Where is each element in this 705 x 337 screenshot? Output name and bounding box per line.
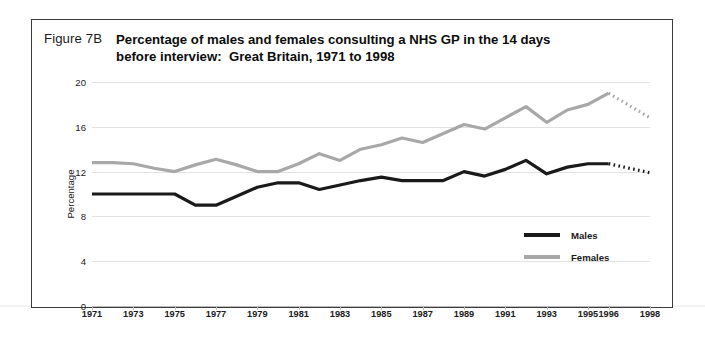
- x-tick-mark-1987: [423, 306, 424, 310]
- series-line-females: [92, 93, 609, 171]
- x-tick-label-1991: 1991: [495, 309, 515, 319]
- x-tick-label-1993: 1993: [536, 309, 556, 319]
- x-tick-mark-1996: [609, 306, 610, 310]
- x-tick-label-1985: 1985: [371, 309, 391, 319]
- legend-item-females: Females: [524, 246, 609, 268]
- plot-area: Percentage 048121620 1971197319751977197…: [92, 82, 650, 306]
- figure-container: Figure 7B Percentage of males and female…: [0, 0, 705, 337]
- legend-label-males: Males: [571, 230, 598, 241]
- title-row: Figure 7B Percentage of males and female…: [44, 31, 662, 65]
- x-tick-label-1995: 1995: [578, 309, 598, 319]
- page-title: Percentage of males and females consulti…: [116, 31, 550, 65]
- x-tick-mark-1989: [464, 306, 465, 310]
- x-tick-mark-1981: [299, 306, 300, 310]
- x-tick-label-1996: 1996: [598, 309, 618, 319]
- x-tick-mark-1995: [588, 306, 589, 310]
- x-tick-mark-1998: [650, 306, 651, 310]
- series-layer: [92, 82, 650, 306]
- title-line-2: before interview: Great Britain, 1971 to…: [116, 48, 550, 65]
- legend-swatch-females: [524, 255, 560, 258]
- legend-item-males: Males: [524, 224, 609, 246]
- x-tick-label-1973: 1973: [123, 309, 143, 319]
- series-line-females-projected: [609, 93, 650, 118]
- y-tick-label-4: 4: [81, 256, 86, 267]
- x-tick-mark-1983: [340, 306, 341, 310]
- x-tick-label-1971: 1971: [82, 309, 102, 319]
- x-tick-mark-1993: [547, 306, 548, 310]
- series-line-males: [92, 160, 609, 205]
- x-tick-label-1998: 1998: [640, 309, 660, 319]
- x-tick-mark-1979: [257, 306, 258, 310]
- figure-number: Figure 7B: [44, 31, 102, 46]
- x-tick-mark-1977: [216, 306, 217, 310]
- x-tick-label-1987: 1987: [412, 309, 432, 319]
- x-tick-label-1977: 1977: [206, 309, 226, 319]
- x-tick-mark-1991: [505, 306, 506, 310]
- y-tick-label-12: 12: [75, 166, 86, 177]
- x-tick-label-1975: 1975: [164, 309, 184, 319]
- x-tick-mark-1985: [381, 306, 382, 310]
- series-line-males-projected: [609, 164, 650, 173]
- x-tick-mark-1975: [175, 306, 176, 310]
- y-tick-label-8: 8: [81, 211, 86, 222]
- y-tick-label-20: 20: [75, 77, 86, 88]
- x-tick-label-1983: 1983: [330, 309, 350, 319]
- legend-label-females: Females: [571, 252, 609, 263]
- title-line-1: Percentage of males and females consulti…: [116, 31, 550, 48]
- x-tick-label-1979: 1979: [247, 309, 267, 319]
- x-tick-label-1989: 1989: [454, 309, 474, 319]
- x-axis-line: [92, 306, 650, 307]
- y-tick-label-16: 16: [75, 121, 86, 132]
- x-tick-mark-1973: [133, 306, 134, 310]
- legend-swatch-males: [524, 233, 560, 236]
- legend: Males Females: [524, 224, 609, 268]
- x-tick-mark-1971: [92, 306, 93, 310]
- figure-panel: Figure 7B Percentage of males and female…: [31, 19, 673, 308]
- x-tick-label-1981: 1981: [288, 309, 308, 319]
